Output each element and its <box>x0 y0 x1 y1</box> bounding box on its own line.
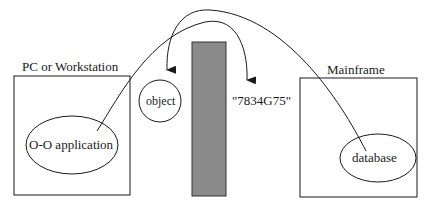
mainframe-label: Mainframe <box>327 63 385 76</box>
oo-application-label: O-O application <box>29 138 113 151</box>
database-label: database <box>352 151 397 164</box>
value-label: "7834G75" <box>232 94 291 107</box>
object-label: object <box>146 95 175 107</box>
pc-workstation-label: PC or Workstation <box>22 60 118 73</box>
pc-workstation-box <box>14 76 130 195</box>
diagram-canvas <box>0 0 425 209</box>
barrier-bar <box>192 42 226 196</box>
